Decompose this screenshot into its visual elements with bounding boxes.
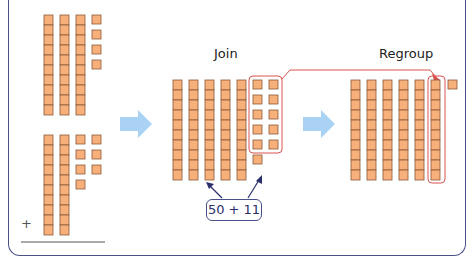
- one-cube: [92, 150, 101, 159]
- one-cube: [253, 110, 262, 119]
- regroup-connector: [282, 70, 436, 79]
- one-cube: [253, 95, 262, 104]
- one-cube: [92, 135, 101, 144]
- one-cube: [448, 80, 457, 89]
- one-cube: [92, 15, 101, 24]
- one-cube: [269, 140, 278, 149]
- one-cube: [92, 30, 101, 39]
- one-cube: [269, 125, 278, 134]
- ten-rod: [44, 15, 53, 115]
- one-cube: [76, 180, 85, 189]
- ten-rod: [205, 80, 214, 180]
- one-cube: [269, 80, 278, 89]
- one-cube: [76, 165, 85, 174]
- one-cube: [253, 80, 262, 89]
- ten-rod: [221, 80, 230, 180]
- ten-rod: [431, 80, 440, 180]
- arrowhead-icon: [206, 182, 214, 189]
- one-cube: [253, 140, 262, 149]
- ten-rod: [383, 80, 392, 180]
- expression-callout: 50 + 11: [206, 199, 262, 221]
- one-cube: [92, 165, 101, 174]
- one-cube: [253, 155, 262, 164]
- right-arrow-icon: [120, 110, 152, 138]
- regroup-label: Regroup: [379, 46, 433, 61]
- callout-pointer-tens: [210, 186, 222, 198]
- ten-rod: [173, 80, 182, 180]
- one-cube: [269, 95, 278, 104]
- one-cube: [269, 110, 278, 119]
- one-cube: [92, 60, 101, 69]
- ten-rod: [60, 15, 69, 115]
- one-cube: [253, 125, 262, 134]
- ten-rod: [367, 80, 376, 180]
- ten-rod: [44, 135, 53, 235]
- ten-rod: [189, 80, 198, 180]
- base-ten-blocks-diagram: [0, 0, 476, 262]
- right-arrow-icon: [303, 110, 335, 138]
- ten-rod: [76, 15, 85, 115]
- callout-pointer-ones: [248, 180, 259, 198]
- plus-sign: +: [21, 216, 32, 231]
- ten-rod: [351, 80, 360, 180]
- ten-rod: [60, 135, 69, 235]
- one-cube: [92, 45, 101, 54]
- one-cube: [76, 150, 85, 159]
- one-cube: [76, 135, 85, 144]
- ten-rod: [237, 80, 246, 180]
- ten-rod: [399, 80, 408, 180]
- ten-rod: [415, 80, 424, 180]
- join-label: Join: [214, 46, 238, 61]
